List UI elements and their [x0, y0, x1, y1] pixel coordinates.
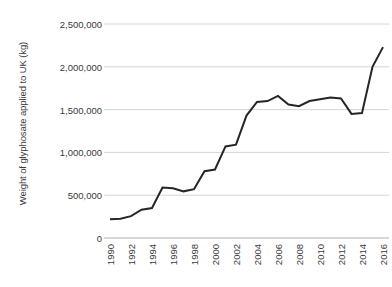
- x-axis-tick-label: 2008: [294, 244, 305, 265]
- x-axis-tick-label: 2012: [336, 244, 347, 265]
- x-axis-tick-label: 1996: [168, 244, 179, 265]
- x-axis-tick-label: 2004: [252, 244, 263, 265]
- x-axis-tick-label: 2002: [231, 244, 242, 265]
- x-axis-tick-labels: 1990199219941996199820002002200420062008…: [0, 0, 392, 287]
- x-axis-tick-label: 1992: [126, 244, 137, 265]
- x-axis-tick-label: 2006: [273, 244, 284, 265]
- x-axis-tick-label: 1990: [105, 244, 116, 265]
- x-axis-tick-label: 2014: [357, 244, 368, 265]
- x-axis-tick-label: 1998: [189, 244, 200, 265]
- x-axis-tick-label: 1994: [147, 244, 158, 265]
- x-axis-tick-label: 2016: [378, 244, 389, 265]
- x-axis-tick-label: 2000: [210, 244, 221, 265]
- x-axis-tick-label: 2010: [315, 244, 326, 265]
- glyphosate-line-chart: Weight of glyphosate applied to UK (kg) …: [0, 0, 392, 287]
